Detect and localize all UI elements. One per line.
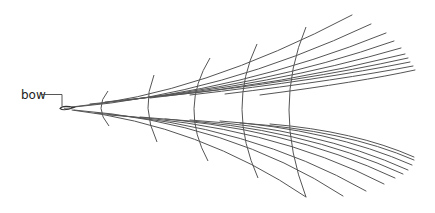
transverse-wave-2 <box>148 75 157 142</box>
boat-hull <box>60 106 74 109</box>
diverging-wave-upper-1 <box>72 15 352 107</box>
diverging-wave-lower-3 <box>95 113 366 191</box>
transverse-wave-1 <box>101 91 109 126</box>
diverging-wave-upper-7 <box>165 58 408 96</box>
transverse-waves <box>101 27 306 197</box>
bow-callout: bow <box>21 88 62 106</box>
transverse-wave-3 <box>194 58 210 161</box>
kelvin-wake-diagram: bow <box>0 0 435 213</box>
diverging-wave-upper-2 <box>74 24 371 107</box>
bow-label: bow <box>21 88 46 102</box>
diverging-waves-upper <box>72 15 415 107</box>
